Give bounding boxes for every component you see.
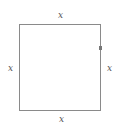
label-top: x	[58, 11, 63, 20]
square-shape	[19, 24, 101, 111]
label-left: x	[8, 64, 13, 73]
label-bottom: x	[59, 115, 64, 124]
label-right: x	[107, 64, 112, 73]
tick-mark	[99, 46, 102, 50]
